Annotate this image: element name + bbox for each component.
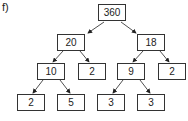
node-l2-3: 9 — [117, 63, 145, 80]
node-l1-left: 20 — [57, 34, 85, 51]
edge-10-5 — [60, 80, 70, 93]
edge-10-2 — [33, 80, 43, 93]
edge-20-10 — [53, 51, 63, 62]
node-l1-right: 18 — [137, 34, 165, 51]
edge-9-3b — [140, 80, 150, 93]
node-l2-2: 2 — [78, 63, 106, 80]
node-root: 360 — [98, 4, 126, 21]
edge-18-9 — [133, 51, 143, 62]
edge-20-2 — [80, 51, 89, 62]
edge-360-20 — [88, 22, 104, 33]
node-l2-1: 10 — [37, 63, 65, 80]
node-l3-1: 2 — [17, 94, 45, 111]
edge-9-3a — [113, 80, 123, 93]
edge-360-18 — [121, 22, 136, 33]
node-l2-4: 2 — [158, 63, 186, 80]
node-l3-2: 5 — [57, 94, 85, 111]
edge-18-2 — [160, 51, 169, 62]
node-l3-4: 3 — [137, 94, 165, 111]
node-l3-3: 3 — [97, 94, 125, 111]
